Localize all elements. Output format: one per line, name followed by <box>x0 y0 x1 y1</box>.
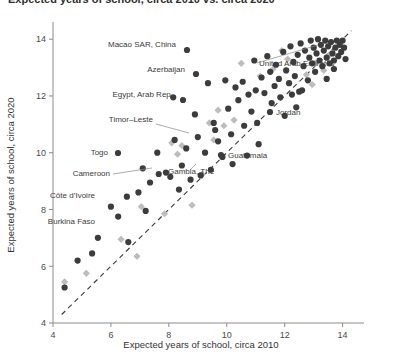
annotation-label: Macao SAR, China <box>108 40 177 49</box>
data-point-circle <box>89 250 95 256</box>
data-point-diamond <box>214 107 221 114</box>
data-point-circle <box>313 50 319 56</box>
data-point-circle <box>276 76 282 82</box>
data-point-circle <box>315 36 321 42</box>
y-tick-label: 14 <box>36 34 46 44</box>
data-point-circle <box>108 204 114 210</box>
data-point-circle <box>212 127 218 133</box>
annotation-label: Burkina Faso <box>48 217 96 226</box>
data-point-circle <box>248 108 254 114</box>
annotated-data-point <box>184 47 190 53</box>
data-point-circle <box>202 150 208 156</box>
data-point-circle <box>143 208 149 214</box>
data-point-circle <box>280 49 286 55</box>
data-point-circle <box>283 67 289 73</box>
data-point-circle <box>286 80 292 86</box>
point-annotations: Macao SAR, ChinaAzerbaijanEgypt, Arab Re… <box>48 40 335 226</box>
data-point-circle <box>269 100 275 106</box>
data-point-circle <box>329 50 335 56</box>
data-point-circle <box>154 150 160 156</box>
data-point-circle <box>287 43 293 49</box>
annotation-label: United Arab Emirates <box>259 59 335 68</box>
data-point-circle <box>254 120 260 126</box>
annotation-label: Cameroon <box>73 169 110 178</box>
annotated-data-point <box>193 71 199 77</box>
y-tick-label: 6 <box>41 262 46 272</box>
data-point-circle <box>75 257 81 263</box>
data-point-circle <box>305 77 311 83</box>
data-point-circle <box>312 69 318 75</box>
annotated-data-point <box>115 150 121 156</box>
data-point-circle <box>235 97 241 103</box>
data-point-circle <box>140 165 146 171</box>
data-point-diamond <box>174 151 181 158</box>
annotation-leader-line <box>113 168 152 174</box>
data-point-circle <box>295 52 301 58</box>
data-point-circle <box>298 40 304 46</box>
annotation-label: Egypt, Arab Rep. <box>113 90 173 99</box>
annotation-label: Guatemala <box>228 151 268 160</box>
data-point-circle <box>124 194 130 200</box>
data-point-circle <box>267 69 273 75</box>
annotation-label: Gambia, The <box>168 167 215 176</box>
data-point-circle <box>251 57 257 63</box>
annotation-label: Jordan <box>276 108 300 117</box>
annotation-label: Côte d’Ivoire <box>50 191 95 200</box>
data-point-circle <box>232 84 238 90</box>
x-axis-title: Expected years of school, circa 2010 <box>123 339 278 350</box>
data-point-diamond <box>230 116 237 123</box>
data-point-circle <box>229 161 235 167</box>
data-point-circle <box>277 94 283 100</box>
data-point-circle <box>340 38 346 44</box>
data-point-diamond <box>83 270 90 277</box>
y-tick-label: 10 <box>36 148 46 158</box>
data-point-circle <box>183 145 189 151</box>
data-point-circle <box>225 106 231 112</box>
data-point-diamond <box>117 236 124 243</box>
data-point-diamond <box>238 60 245 67</box>
data-point-circle <box>241 123 247 129</box>
data-point-diamond <box>61 278 68 285</box>
annotated-data-point <box>267 109 273 115</box>
data-point-circle <box>289 91 295 97</box>
chart-canvas: Expected years of school, circa 2010 vs.… <box>0 0 413 356</box>
data-point-circle <box>258 74 264 80</box>
data-point-circle <box>95 235 101 241</box>
annotated-data-point <box>180 97 186 103</box>
data-point-circle <box>115 213 121 219</box>
data-point-circle <box>172 137 178 143</box>
x-tick-label: 12 <box>280 330 290 340</box>
data-point-circle <box>256 141 262 147</box>
data-point-circle <box>192 111 198 117</box>
data-point-circle <box>61 284 67 290</box>
data-point-circle <box>299 87 305 93</box>
data-point-circle <box>341 45 347 51</box>
scatter-plot-figure: Expected years of school, circa 2010 vs.… <box>0 0 413 356</box>
x-tick-label: 6 <box>108 330 113 340</box>
page-title: Expected years of school, circa 2010 vs.… <box>8 0 275 5</box>
data-point-circle <box>228 131 234 137</box>
data-point-circle <box>240 79 246 85</box>
y-axis-title: Expected years of school, circa 2020 <box>5 97 16 252</box>
data-point-circle <box>271 83 277 89</box>
data-point-circle <box>215 138 221 144</box>
data-point-circle <box>308 38 314 44</box>
annotation-label: Timor–Leste <box>109 115 154 124</box>
chart-title-clipped: Expected years of school, circa 2010 vs.… <box>8 0 275 5</box>
data-point-circle <box>261 90 267 96</box>
y-tick-label: 4 <box>41 318 46 328</box>
data-point-circle <box>253 87 259 93</box>
y-tick-label: 12 <box>36 91 46 101</box>
data-point-circle <box>125 239 131 245</box>
data-point-circle <box>176 187 182 193</box>
data-point-circle <box>324 76 330 82</box>
data-point-diamond <box>133 253 140 260</box>
data-point-circle <box>342 56 348 62</box>
data-point-circle <box>205 80 211 86</box>
annotated-data-point <box>218 152 224 158</box>
data-point-circle <box>211 120 217 126</box>
data-point-circle <box>322 38 328 44</box>
data-point-circle <box>156 171 162 177</box>
x-tick-label: 4 <box>50 330 55 340</box>
data-point-circle <box>245 91 251 97</box>
